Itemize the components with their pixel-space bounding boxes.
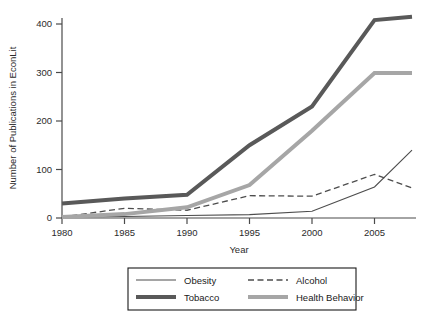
y-tick-label: 300 [36,67,52,78]
legend-label-health-behavior: Health Behavior [296,292,364,303]
chart-legend: ObesityAlcoholTobaccoHealth Behavior [128,268,364,310]
legend-label-obesity: Obesity [184,275,216,286]
legend-label-tobacco: Tobacco [184,292,219,303]
legend-label-alcohol: Alcohol [296,275,327,286]
x-tick-label: 2000 [301,227,322,238]
y-tick-label: 200 [36,115,52,126]
x-axis-title: Year [229,244,248,255]
x-tick-label: 2005 [364,227,385,238]
x-tick-label: 1995 [239,227,260,238]
x-tick-label: 1990 [176,227,197,238]
y-tick-label: 0 [47,212,52,223]
y-tick-label: 100 [36,164,52,175]
y-tick-label: 400 [36,18,52,29]
y-axis-title: Number of Publications in EconLit [7,46,18,189]
publications-line-chart: 0100200300400 198019851990199520002005 N… [0,0,426,316]
x-tick-label: 1985 [114,227,135,238]
x-tick-label: 1980 [51,227,72,238]
